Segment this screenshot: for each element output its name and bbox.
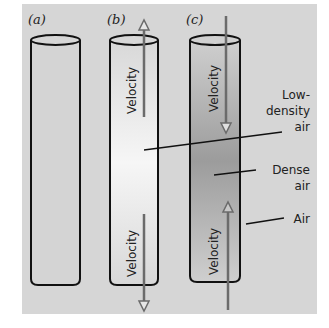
panel-label-c: (c) [186, 12, 203, 27]
air-column-diagram: (a) (b) Velocity Velocity (c) Velocity V… [0, 0, 329, 328]
label-air: Air [294, 212, 311, 226]
velocity-label-b-bottom: Velocity [125, 230, 139, 277]
cylinder-a [31, 40, 80, 285]
cylinder-c-top [190, 35, 240, 45]
panel-c: (c) Velocity Velocity [186, 12, 240, 310]
label-low-density-3: air [294, 120, 310, 134]
velocity-label-b-top: Velocity [125, 67, 139, 114]
cylinder-a-top [31, 35, 80, 45]
label-dense-2: air [294, 179, 310, 193]
label-low-density-1: Low- [282, 88, 310, 102]
label-dense-1: Dense [272, 163, 310, 177]
panel-a: (a) [28, 12, 80, 285]
panel-label-a: (a) [28, 12, 46, 27]
velocity-label-c-bottom: Velocity [207, 228, 221, 275]
cylinder-b-top [110, 35, 158, 45]
panel-b: (b) Velocity Velocity [107, 12, 158, 311]
panel-label-b: (b) [107, 12, 125, 27]
label-low-density-2: density [266, 104, 310, 118]
velocity-label-c-top: Velocity [207, 65, 221, 112]
